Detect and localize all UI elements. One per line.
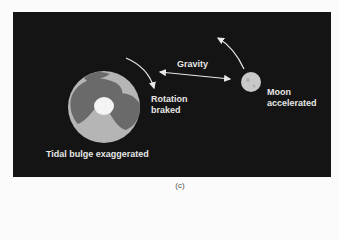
gravity-label: Gravity — [177, 59, 208, 70]
moon-icon — [241, 72, 261, 92]
moon-label-line2: accelerated — [267, 98, 317, 109]
tidal-bulge-label: Tidal bulge exaggerated — [46, 149, 149, 160]
gravity-arrow-icon — [160, 72, 230, 79]
ice-cap — [94, 97, 114, 115]
moon-label-line1: Moon — [267, 87, 291, 98]
rotation-label-line2: braked — [151, 105, 181, 116]
earth-icon — [68, 71, 140, 143]
rotation-label-line1: Rotation — [151, 94, 188, 105]
figure-caption: (c) — [170, 181, 190, 190]
moon-orbit-arrow-icon — [218, 38, 244, 69]
